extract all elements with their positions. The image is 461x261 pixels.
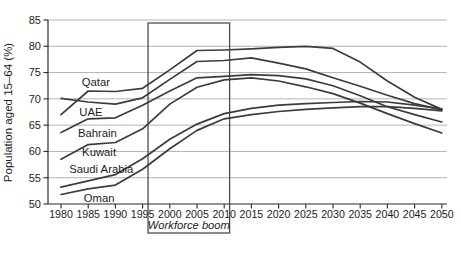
tick-marks (44, 20, 442, 209)
series-label-bahrain: Bahrain (78, 127, 117, 139)
x-tick-label: 1985 (76, 208, 100, 220)
x-tick-label: 1980 (49, 208, 73, 220)
series-label-saudi-arabia: Saudi Arabia (69, 163, 134, 175)
y-tick-label: 55 (29, 172, 41, 184)
y-tick-label: 85 (29, 14, 41, 26)
series-label-uae: UAE (79, 106, 103, 118)
y-tick-labels: 5055606570758085 (29, 14, 41, 210)
series-label-qatar: Qatar (82, 76, 110, 88)
x-tick-label: 2040 (376, 208, 400, 220)
x-tick-label: 2045 (403, 208, 427, 220)
x-tick-label: 2050 (430, 208, 454, 220)
series-line-qatar (61, 46, 442, 114)
series-labels: QatarUAEBahrainKuwaitSaudi ArabiaOman (69, 76, 134, 204)
y-tick-label: 60 (29, 145, 41, 157)
x-tick-label: 2020 (267, 208, 291, 220)
y-tick-label: 65 (29, 119, 41, 131)
series-label-oman: Oman (84, 192, 115, 204)
x-tick-label: 1990 (104, 208, 128, 220)
series-line-kuwait (61, 78, 442, 160)
y-tick-label: 75 (29, 66, 41, 78)
y-tick-label: 80 (29, 40, 41, 52)
x-tick-label: 2015 (240, 208, 264, 220)
x-tick-label: 2030 (321, 208, 345, 220)
chart-svg: 5055606570758085 19801985199019952000200… (0, 0, 461, 261)
population-chart-figure: 5055606570758085 19801985199019952000200… (0, 0, 461, 261)
x-tick-labels: 1980198519901995200020052010201520202025… (49, 208, 453, 220)
series-label-kuwait: Kuwait (82, 146, 117, 158)
x-tick-label: 2025 (294, 208, 318, 220)
y-tick-label: 50 (29, 198, 41, 210)
x-tick-label: 2035 (348, 208, 372, 220)
series-line-oman (61, 107, 442, 195)
y-axis-title: Population aged 15–64 (%) (2, 43, 14, 183)
y-tick-label: 70 (29, 93, 41, 105)
annotation-text: Workforce boom (148, 219, 230, 231)
